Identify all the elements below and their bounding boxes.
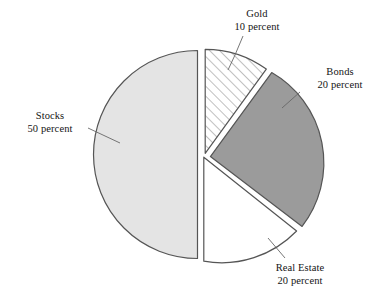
slice-label-bonds-value: 20 percent [300,79,380,92]
pie-slice-stocks[interactable] [94,51,198,259]
slice-label-stocks-name: Stocks [8,110,92,123]
pie-chart-graphic [0,0,383,306]
slice-label-stocks: Stocks 50 percent [8,110,92,135]
slice-label-real-estate-value: 20 percent [252,275,348,288]
slice-label-real-estate: Real Estate 20 percent [252,262,348,287]
slice-label-bonds: Bonds 20 percent [300,66,380,91]
slice-label-gold: Gold 10 percent [214,8,300,33]
slice-label-stocks-value: 50 percent [8,123,92,136]
slice-label-gold-name: Gold [214,8,300,21]
slice-label-real-estate-name: Real Estate [252,262,348,275]
slice-label-gold-value: 10 percent [214,21,300,34]
slice-label-bonds-name: Bonds [300,66,380,79]
pie-chart-figure: Gold 10 percent Bonds 20 percent Stocks … [0,0,383,306]
